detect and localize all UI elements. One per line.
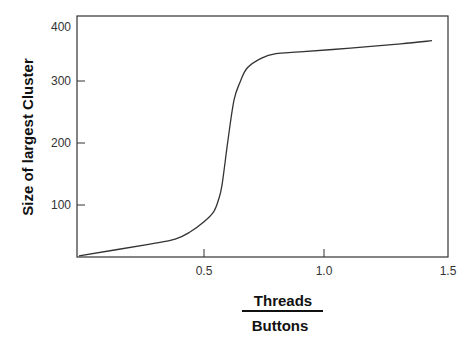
- y-axis-ticks: 100200300400: [51, 20, 85, 212]
- x-tick-label: 1.5: [440, 264, 457, 278]
- y-tick-label: 100: [51, 198, 71, 212]
- data-line: [79, 41, 432, 256]
- x-axis-label-numerator: Threads: [254, 292, 312, 309]
- plot-frame: [77, 16, 448, 257]
- x-axis-label-denominator: Buttons: [252, 317, 309, 334]
- y-axis-label: Size of largest Cluster: [19, 58, 36, 216]
- x-tick-label: 1.0: [316, 264, 333, 278]
- y-tick-label: 200: [51, 136, 71, 150]
- x-tick-label: 0.5: [196, 264, 213, 278]
- chart: 100200300400 0.51.01.5 Size of largest C…: [0, 0, 473, 354]
- y-tick-label: 300: [51, 74, 71, 88]
- y-tick-label: 400: [51, 20, 71, 34]
- x-axis-ticks: 0.51.01.5: [196, 249, 457, 278]
